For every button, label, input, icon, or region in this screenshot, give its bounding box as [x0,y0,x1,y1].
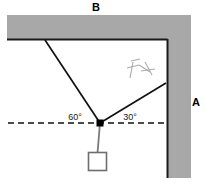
ceiling-surface [7,15,191,39]
wall-surface [167,15,191,178]
physics-diagram-figure: B A 60° 30° [0,0,205,189]
wall-label-a: A [192,96,200,108]
ceiling-label-b: B [92,1,100,13]
knot-node [97,120,104,127]
left-cable [45,40,100,123]
suspended-block [89,153,107,171]
angle-label-left-60: 60° [68,112,82,122]
faint-sketch-annotation [127,59,155,78]
hanger-cable [98,123,101,153]
diagram-canvas: B A 60° 30° [0,0,205,189]
angle-label-right-30: 30° [123,112,137,122]
